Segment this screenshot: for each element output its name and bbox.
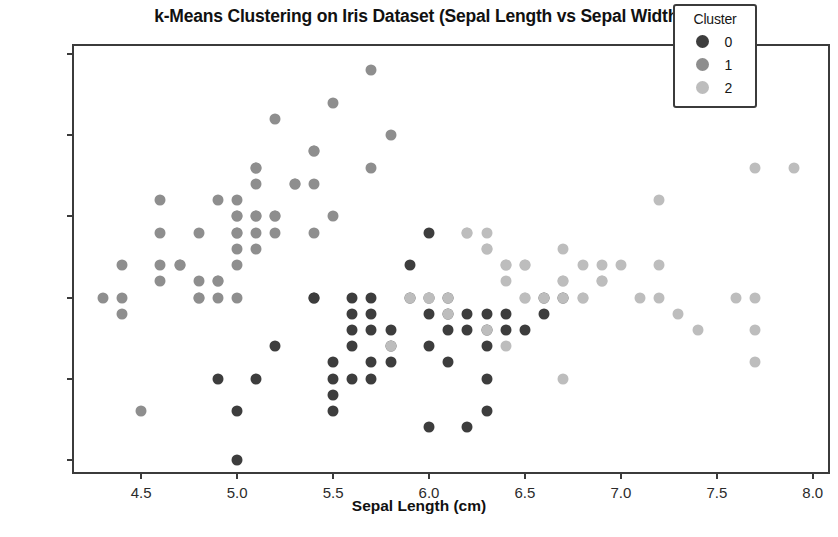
data-points-layer	[74, 46, 828, 472]
legend-item-1[interactable]: 1	[681, 53, 749, 76]
data-point	[251, 373, 262, 384]
data-point	[232, 292, 243, 303]
data-point	[270, 227, 281, 238]
data-point	[193, 292, 204, 303]
data-point	[519, 260, 530, 271]
data-point	[519, 324, 530, 335]
data-point	[308, 178, 319, 189]
data-point	[558, 243, 569, 254]
legend-item-label: 2	[725, 80, 735, 96]
data-point	[116, 308, 127, 319]
data-point	[481, 227, 492, 238]
data-point	[462, 324, 473, 335]
data-point	[366, 292, 377, 303]
data-point	[212, 373, 223, 384]
data-point	[232, 243, 243, 254]
data-point	[750, 324, 761, 335]
legend-title: Cluster	[681, 11, 749, 27]
data-point	[232, 406, 243, 417]
data-point	[577, 292, 588, 303]
legend-item-0[interactable]: 0	[681, 30, 749, 53]
data-point	[385, 130, 396, 141]
data-point	[347, 373, 358, 384]
data-point	[750, 357, 761, 368]
y-tick-mark	[67, 215, 74, 217]
data-point	[404, 292, 415, 303]
x-axis-label: Sepal Length (cm)	[0, 497, 838, 515]
data-point	[251, 227, 262, 238]
data-point	[500, 341, 511, 352]
data-point	[270, 341, 281, 352]
x-tick-mark	[620, 472, 622, 479]
data-point	[308, 292, 319, 303]
data-point	[270, 211, 281, 222]
data-point	[500, 260, 511, 271]
data-point	[347, 341, 358, 352]
data-point	[366, 373, 377, 384]
y-tick-mark	[67, 459, 74, 461]
scatter-plot-figure: k-Means Clustering on Iris Dataset (Sepa…	[0, 0, 838, 537]
data-point	[232, 454, 243, 465]
data-point	[500, 324, 511, 335]
data-point	[731, 292, 742, 303]
data-point	[385, 357, 396, 368]
data-point	[635, 292, 646, 303]
data-point	[481, 308, 492, 319]
legend: Cluster 012	[673, 4, 757, 108]
y-tick-mark	[67, 53, 74, 55]
data-point	[97, 292, 108, 303]
data-point	[270, 114, 281, 125]
plot-area: 4.55.05.56.06.57.07.58.02.02.53.03.54.04…	[72, 44, 830, 474]
data-point	[462, 422, 473, 433]
data-point	[366, 308, 377, 319]
data-point	[424, 341, 435, 352]
data-point	[577, 260, 588, 271]
legend-marker-icon	[696, 35, 709, 48]
data-point	[385, 324, 396, 335]
legend-item-label: 1	[725, 57, 735, 73]
legend-item-2[interactable]: 2	[681, 76, 749, 99]
data-point	[366, 162, 377, 173]
data-point	[366, 357, 377, 368]
data-point	[596, 276, 607, 287]
data-point	[539, 308, 550, 319]
data-point	[232, 260, 243, 271]
data-point	[155, 227, 166, 238]
data-point	[251, 178, 262, 189]
data-point	[692, 324, 703, 335]
legend-entries: 012	[681, 30, 749, 99]
data-point	[481, 373, 492, 384]
y-tick-mark	[67, 378, 74, 380]
data-point	[136, 406, 147, 417]
legend-marker-icon	[696, 58, 709, 71]
data-point	[654, 292, 665, 303]
data-point	[155, 276, 166, 287]
data-point	[519, 292, 530, 303]
data-point	[328, 389, 339, 400]
y-tick-mark	[67, 297, 74, 299]
data-point	[558, 373, 569, 384]
data-point	[308, 227, 319, 238]
data-point	[788, 162, 799, 173]
data-point	[347, 308, 358, 319]
data-point	[116, 292, 127, 303]
data-point	[462, 227, 473, 238]
x-tick-mark	[428, 472, 430, 479]
data-point	[673, 308, 684, 319]
data-point	[155, 195, 166, 206]
data-point	[615, 260, 626, 271]
x-tick-mark	[140, 472, 142, 479]
x-tick-mark	[332, 472, 334, 479]
x-tick-mark	[812, 472, 814, 479]
data-point	[251, 211, 262, 222]
data-point	[481, 341, 492, 352]
data-point	[654, 195, 665, 206]
data-point	[232, 211, 243, 222]
data-point	[596, 260, 607, 271]
data-point	[424, 227, 435, 238]
legend-item-label: 0	[725, 34, 735, 50]
data-point	[443, 308, 454, 319]
data-point	[462, 308, 473, 319]
data-point	[347, 324, 358, 335]
data-point	[558, 292, 569, 303]
